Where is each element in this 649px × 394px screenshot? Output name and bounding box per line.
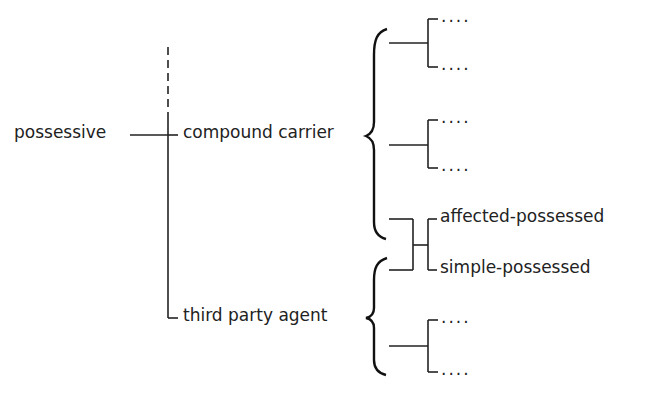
option-placeholder: .... <box>441 109 471 126</box>
option-placeholder: .... <box>441 361 471 378</box>
option-placeholder: .... <box>441 157 471 174</box>
option-placeholder: .... <box>441 309 471 326</box>
compound-carrier-brace <box>366 29 387 239</box>
root-label: possessive <box>14 124 106 141</box>
network-lines <box>0 0 649 394</box>
option-placeholder: .... <box>441 8 471 25</box>
option-placeholder: .... <box>441 56 471 73</box>
option-simple-possessed: simple-possessed <box>440 259 591 276</box>
feature-third-party-agent: third party agent <box>183 307 327 324</box>
option-affected-possessed: affected-possessed <box>440 208 604 225</box>
systemic-network-diagram: possessive compound carrier third party … <box>0 0 649 394</box>
third-party-agent-brace <box>366 258 387 375</box>
feature-compound-carrier: compound carrier <box>183 124 334 141</box>
